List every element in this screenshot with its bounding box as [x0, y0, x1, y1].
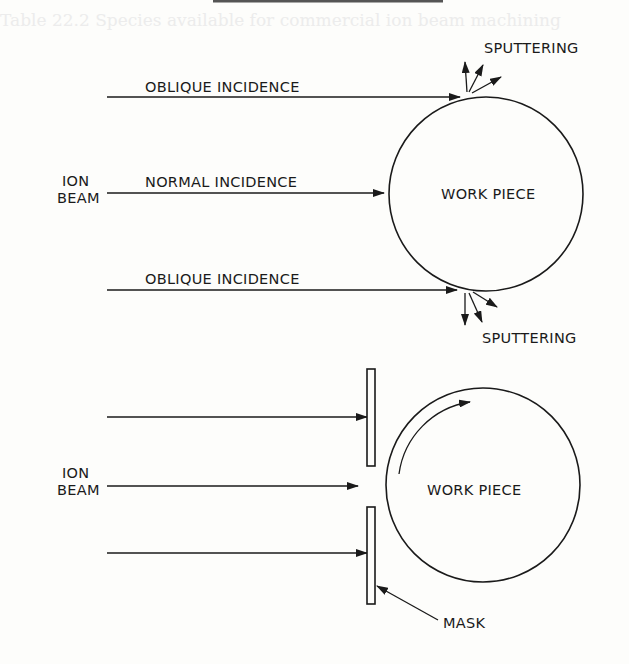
normal-incidence-label: NORMAL INCIDENCE	[145, 174, 297, 190]
ion-beam-machining-figure: Table 22.2 Species available for commerc…	[0, 0, 629, 664]
mask-lower	[367, 507, 375, 604]
sputter-arrows-top	[465, 62, 501, 93]
top-diagram: ION BEAM OBLIQUE INCIDENCE NORMAL INCIDE…	[57, 40, 583, 346]
mask-leader-arrow	[377, 586, 438, 620]
oblique-incidence-bottom-label: OBLIQUE INCIDENCE	[145, 271, 300, 287]
workpiece-label-bottom: WORK PIECE	[427, 482, 521, 498]
ion-beam-label-line2: BEAM	[57, 190, 100, 206]
sputtering-label-top: SPUTTERING	[484, 40, 579, 56]
rotation-arrow-icon	[399, 402, 470, 474]
workpiece-label-top: WORK PIECE	[441, 186, 535, 202]
sputtering-label-bottom: SPUTTERING	[482, 330, 577, 346]
sputter-arrows-bottom	[465, 292, 497, 325]
bottom-diagram: ION BEAM WORK PIECE MASK	[57, 369, 580, 631]
page-rule-fragment	[213, 0, 443, 3]
ion-beam-label-line2-bottom: BEAM	[57, 482, 100, 498]
mask-upper	[367, 369, 375, 466]
oblique-incidence-top-label: OBLIQUE INCIDENCE	[145, 79, 300, 95]
mask-label: MASK	[443, 615, 486, 631]
ghost-header-text: Table 22.2 Species available for commerc…	[0, 10, 561, 30]
ion-beam-label-line1-bottom: ION	[62, 465, 89, 481]
ion-beam-label-line1: ION	[62, 173, 89, 189]
